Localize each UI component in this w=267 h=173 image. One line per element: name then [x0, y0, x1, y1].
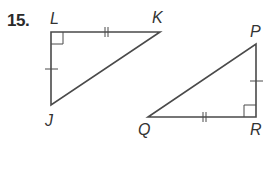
vertex-label-r: R	[250, 122, 262, 138]
vertex-label-l: L	[50, 11, 59, 27]
triangle-pqr-outline	[148, 44, 256, 117]
triangle-pqr	[148, 44, 263, 122]
vertex-label-j: J	[45, 113, 53, 129]
vertex-label-q: Q	[138, 122, 150, 138]
right-angle-mark-r	[244, 105, 256, 117]
geometry-figure	[0, 0, 267, 173]
vertex-label-k: K	[152, 10, 163, 26]
right-angle-mark-l	[51, 32, 63, 44]
triangle-jkl	[45, 27, 160, 105]
vertex-label-p: P	[250, 24, 261, 40]
triangle-jkl-outline	[51, 32, 160, 105]
